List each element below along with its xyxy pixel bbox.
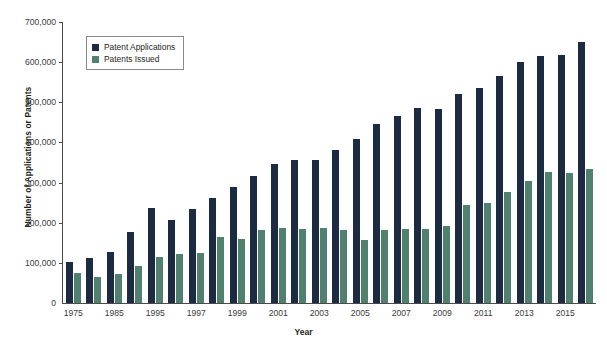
bar-patent-applications <box>312 160 319 303</box>
bar-patents-issued <box>586 169 593 303</box>
bar-patent-applications <box>476 88 483 303</box>
bar-patents-issued <box>361 240 368 303</box>
legend-label: Patent Applications <box>104 42 175 52</box>
bar-patents-issued <box>238 239 245 303</box>
bar-patent-applications <box>414 108 421 303</box>
bar-group <box>350 22 371 303</box>
bar-patents-issued <box>94 277 101 303</box>
legend-swatch-icon <box>92 44 99 51</box>
bar-patent-applications <box>578 42 585 303</box>
bar-patents-issued <box>402 229 409 303</box>
bar-group <box>268 22 289 303</box>
bar-patents-issued <box>74 273 81 304</box>
bar-patents-issued <box>443 226 450 303</box>
bar-patents-issued <box>258 230 265 303</box>
bar-patent-applications <box>127 232 134 303</box>
y-tick-label: 300,000 <box>2 178 56 188</box>
bar-patent-applications <box>107 252 114 303</box>
bar-group <box>309 22 330 303</box>
bar-patents-issued <box>156 257 163 303</box>
bar-group <box>514 22 535 303</box>
bar-patents-issued <box>504 192 511 303</box>
legend-item: Patent Applications <box>92 41 175 53</box>
bar-group <box>432 22 453 303</box>
x-tick-label: 2001 <box>269 308 288 318</box>
x-tick-label: 2013 <box>515 308 534 318</box>
bar-patent-applications <box>66 262 73 303</box>
bar-patents-issued <box>197 253 204 303</box>
x-tick-label: 1999 <box>228 308 247 318</box>
x-tick-label: 2015 <box>556 308 575 318</box>
bar-group <box>330 22 351 303</box>
y-tick-label: 400,000 <box>2 137 56 147</box>
bar-patent-applications <box>496 76 503 303</box>
bar-patent-applications <box>189 209 196 303</box>
bar-patent-applications <box>148 208 155 303</box>
patent-bar-chart: Number of Applications or Patents 700,00… <box>0 0 607 344</box>
bar-patent-applications <box>86 258 93 303</box>
legend-item: Patents Issued <box>92 53 175 65</box>
bar-group <box>453 22 474 303</box>
bar-patents-issued <box>545 172 552 303</box>
x-axis-title: Year <box>0 327 607 337</box>
bar-patents-issued <box>279 228 286 303</box>
bar-group <box>391 22 412 303</box>
y-tick-label: 700,000 <box>2 17 56 27</box>
x-tick-label: 2007 <box>392 308 411 318</box>
y-tick-label: 0 <box>2 298 56 308</box>
chart-legend: Patent ApplicationsPatents Issued <box>86 36 184 70</box>
bar-patents-issued <box>484 203 491 303</box>
bar-group <box>535 22 556 303</box>
bar-group <box>289 22 310 303</box>
bar-patents-issued <box>566 173 573 303</box>
bar-group <box>63 22 84 303</box>
bar-patents-issued <box>320 228 327 303</box>
bar-patent-applications <box>332 150 339 303</box>
bar-patents-issued <box>422 229 429 303</box>
bar-patents-issued <box>176 254 183 303</box>
bar-patents-issued <box>381 230 388 303</box>
bar-patent-applications <box>291 160 298 303</box>
bar-patent-applications <box>168 220 175 303</box>
y-tick-label: 200,000 <box>2 218 56 228</box>
bar-group <box>207 22 228 303</box>
bar-patents-issued <box>135 266 142 303</box>
bar-patent-applications <box>455 94 462 303</box>
x-tick-label: 2011 <box>474 308 492 318</box>
bar-patent-applications <box>517 62 524 303</box>
bar-group <box>494 22 515 303</box>
bar-patent-applications <box>271 164 278 303</box>
x-tick-label: 1995 <box>146 308 165 318</box>
x-tick-label: 1975 <box>64 308 83 318</box>
bar-patents-issued <box>115 274 122 303</box>
bar-group <box>412 22 433 303</box>
bar-group <box>576 22 597 303</box>
bar-patents-issued <box>299 229 306 303</box>
bar-patents-issued <box>340 230 347 303</box>
bar-patent-applications <box>537 56 544 303</box>
legend-swatch-icon <box>92 56 99 63</box>
bar-patent-applications <box>230 187 237 303</box>
bar-patents-issued <box>463 205 470 303</box>
bar-group <box>227 22 248 303</box>
legend-label: Patents Issued <box>104 54 159 64</box>
bar-group <box>248 22 269 303</box>
bar-patent-applications <box>558 55 565 303</box>
y-tick-label: 100,000 <box>2 258 56 268</box>
x-tick-label: 2003 <box>310 308 329 318</box>
y-tick-label: 500,000 <box>2 97 56 107</box>
bar-group <box>555 22 576 303</box>
x-tick-label: 1997 <box>187 308 206 318</box>
bar-group <box>371 22 392 303</box>
bar-group <box>186 22 207 303</box>
bar-patent-applications <box>373 124 380 303</box>
x-tick-label: 2009 <box>433 308 452 318</box>
bar-patents-issued <box>525 181 532 303</box>
bar-patent-applications <box>353 139 360 303</box>
bar-patent-applications <box>394 116 401 303</box>
bar-patents-issued <box>217 237 224 303</box>
x-tick-label: 1985 <box>105 308 124 318</box>
bar-patent-applications <box>209 198 216 303</box>
bar-patent-applications <box>435 109 442 303</box>
x-axis-line <box>62 303 596 304</box>
